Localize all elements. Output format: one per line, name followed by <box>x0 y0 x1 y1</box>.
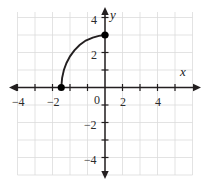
y-tick-label-4: 4 <box>91 14 97 26</box>
graph-canvas <box>0 0 210 184</box>
y-tick-label--4: −4 <box>84 154 96 166</box>
y-tick-label--2: −2 <box>84 119 96 131</box>
x-tick-label--4: −4 <box>12 96 24 108</box>
origin-label: 0 <box>94 94 100 106</box>
x-tick-label-2: 2 <box>120 96 126 108</box>
coordinate-plane-figure: −4 −2 2 4 0 4 2 −2 −4 y x <box>0 0 210 184</box>
plotted-curve <box>61 35 105 88</box>
y-axis-label: y <box>110 8 116 21</box>
x-tick-label--2: −2 <box>47 96 59 108</box>
y-tick-label-2: 2 <box>91 49 97 61</box>
x-axis-label: x <box>180 65 186 78</box>
left-endpoint-dot <box>58 84 65 91</box>
x-tick-label-4: 4 <box>155 96 161 108</box>
right-endpoint-dot <box>101 31 108 38</box>
